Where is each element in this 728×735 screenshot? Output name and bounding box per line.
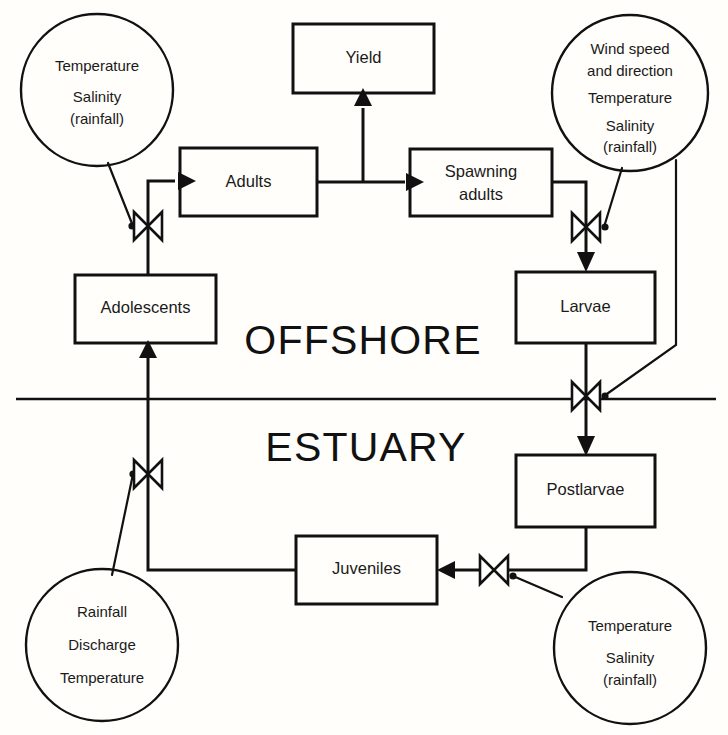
circle-top-right-line-3: Salinity: [606, 117, 655, 134]
circle-bottom-left-line-2: Temperature: [60, 669, 144, 686]
info-dot-top-right-a: [601, 223, 608, 230]
life-cycle-flow-diagram: Temperature Salinity (rainfall) Wind spe…: [0, 0, 728, 735]
box-adults[interactable]: Adults: [180, 148, 317, 216]
circle-top-right-line-0: Wind speed: [590, 40, 669, 57]
arrowhead-into-postlarvae: [577, 436, 595, 456]
box-larvae[interactable]: Larvae: [516, 272, 655, 343]
box-juveniles-label: Juveniles: [332, 559, 401, 577]
circle-top-right-line-1: and direction: [587, 62, 673, 79]
arrowhead-into-yield: [354, 88, 372, 106]
circle-bottom-left-line-1: Discharge: [68, 636, 136, 653]
box-juveniles[interactable]: Juveniles: [296, 536, 437, 604]
info-link-top-right-circle-to-larvae-valve: [604, 168, 622, 227]
circle-top-right-line-2: Temperature: [588, 89, 672, 106]
box-spawning-adults-line-1: adults: [459, 185, 503, 203]
flow-postlarvae-to-juveniles: [452, 527, 586, 570]
arrowhead-into-larvae: [577, 252, 595, 272]
box-adults-label: Adults: [226, 172, 272, 190]
circle-bottom-right-line-2: (rainfall): [603, 671, 657, 688]
circle-top-left[interactable]: Temperature Salinity (rainfall): [21, 14, 173, 166]
box-postlarvae-label: Postlarvae: [547, 480, 625, 498]
circle-top-left-line-2: (rainfall): [70, 110, 124, 127]
box-spawning-adults[interactable]: Spawning adults: [410, 149, 552, 216]
circle-bottom-right[interactable]: Temperature Salinity (rainfall): [554, 572, 706, 724]
circle-top-right-line-4: (rainfall): [603, 138, 657, 155]
circle-top-left-line-1: Salinity: [73, 88, 122, 105]
circle-bottom-left-line-0: Rainfall: [77, 603, 127, 620]
circle-top-right[interactable]: Wind speed and direction Temperature Sal…: [552, 15, 708, 171]
info-link-bottom-left-circle: [112, 474, 133, 575]
info-dot-top-right-b: [601, 392, 608, 399]
circle-bottom-right-line-0: Temperature: [588, 617, 672, 634]
circle-bottom-right-line-1: Salinity: [606, 649, 655, 666]
box-postlarvae[interactable]: Postlarvae: [516, 455, 655, 527]
box-yield-label: Yield: [345, 48, 381, 66]
box-larvae-label: Larvae: [560, 297, 610, 315]
box-adolescents-label: Adolescents: [101, 298, 191, 316]
box-adolescents[interactable]: Adolescents: [75, 275, 216, 343]
circle-top-left-line-0: Temperature: [55, 57, 139, 74]
box-spawning-adults-line-0: Spawning: [445, 162, 517, 180]
region-label-offshore: OFFSHORE: [244, 317, 481, 363]
circle-bottom-left[interactable]: Rainfall Discharge Temperature: [26, 569, 178, 721]
info-dot-bottom-right: [509, 572, 516, 579]
valve-postlarvae-to-juveniles[interactable]: [480, 556, 508, 584]
info-link-top-left-circle: [108, 163, 133, 226]
info-link-bottom-right-circle: [513, 576, 562, 597]
box-yield[interactable]: Yield: [293, 24, 434, 93]
region-label-estuary: ESTUARY: [265, 424, 466, 470]
info-link-top-right-circle-to-postlarvae-valve: [604, 160, 676, 396]
diagram-canvas: Temperature Salinity (rainfall) Wind spe…: [0, 0, 728, 735]
arrowhead-into-juveniles: [437, 561, 455, 579]
